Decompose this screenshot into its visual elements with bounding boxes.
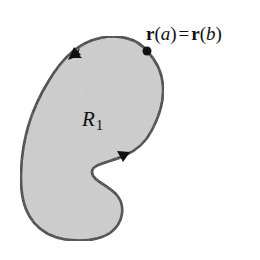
label-r-b: r bbox=[191, 23, 199, 44]
region-label: R1 bbox=[82, 108, 103, 136]
label-paren: ) bbox=[170, 23, 176, 44]
diagram-canvas: r(a)=r(b) R1 bbox=[0, 0, 260, 260]
point-label: r(a)=r(b) bbox=[146, 24, 222, 44]
region-r1-boundary bbox=[21, 37, 163, 241]
label-paren: ) bbox=[216, 23, 222, 44]
label-equals: = bbox=[177, 23, 192, 44]
region-subscript: 1 bbox=[96, 117, 104, 133]
label-b: b bbox=[206, 23, 216, 44]
start-end-point bbox=[143, 47, 152, 56]
label-a: a bbox=[161, 23, 171, 44]
region-name: R bbox=[82, 107, 95, 131]
